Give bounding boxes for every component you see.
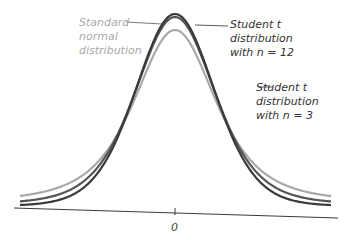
x-axis — [14, 208, 338, 218]
x-axis-zero-label: 0 — [171, 221, 178, 234]
standard-normal-label: Standard normal distribution — [79, 16, 142, 58]
t-n3-label: Student t distribution with n = 3 — [256, 81, 319, 123]
t-n12-label: Student t distribution with n = 12 — [230, 18, 294, 60]
t12-leader-line — [195, 25, 228, 26]
